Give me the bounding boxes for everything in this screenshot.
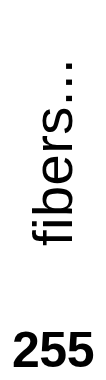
y-axis-label-region: fibers...: [0, 0, 106, 300]
y-axis-label: fibers...: [25, 58, 81, 246]
y-axis-tick-value: 255: [0, 325, 106, 375]
axis-label-crop: fibers... 255: [0, 0, 106, 380]
